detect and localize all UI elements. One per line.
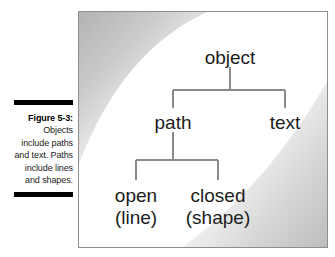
caption-rule-top — [14, 100, 73, 105]
figure-caption-text: Figure 5-3: Objects include paths and te… — [14, 112, 73, 186]
figure-number-label: Figure 5-3: — [28, 113, 73, 123]
object-hierarchy-diagram: object path text open (line) closed (sha… — [79, 12, 327, 247]
node-label-path: path — [155, 112, 192, 133]
node-label-object: object — [205, 47, 256, 68]
node-label-open: open — [115, 185, 157, 206]
node-label-open-sub: (line) — [115, 207, 157, 228]
caption-rule-bottom — [14, 192, 73, 197]
node-label-text: text — [270, 112, 301, 133]
node-label-closed: closed — [191, 185, 246, 206]
node-label-closed-sub: (shape) — [186, 207, 250, 228]
figure-caption-block: Figure 5-3: Objects include paths and te… — [14, 100, 73, 197]
figure-caption-body: Objects include paths and text. Paths in… — [14, 125, 73, 185]
figure-panel: object path text open (line) closed (sha… — [78, 11, 328, 248]
